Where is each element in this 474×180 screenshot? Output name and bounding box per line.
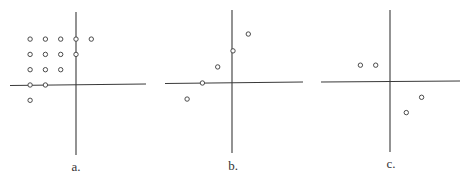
data-point — [28, 98, 32, 102]
data-point — [59, 37, 63, 41]
data-point — [59, 68, 63, 72]
x-axis — [165, 82, 303, 84]
data-point — [374, 63, 378, 67]
data-point — [216, 65, 220, 69]
data-point — [28, 83, 32, 87]
panel-a — [10, 12, 146, 155]
data-point — [89, 37, 93, 41]
data-point — [231, 49, 235, 53]
data-point — [419, 95, 423, 99]
data-point — [185, 97, 189, 101]
scatter-diagrams — [0, 0, 474, 180]
data-point — [43, 52, 47, 56]
data-point — [74, 37, 78, 41]
panel-c-caption: c. — [386, 156, 395, 172]
panel-b — [165, 10, 303, 153]
data-point — [200, 81, 204, 85]
panel-a-caption: a. — [71, 159, 80, 175]
data-point — [246, 32, 250, 36]
data-point — [74, 52, 78, 56]
data-point — [43, 68, 47, 72]
data-point — [59, 52, 63, 56]
data-point — [28, 68, 32, 72]
data-point — [404, 110, 408, 114]
data-point — [43, 83, 47, 87]
panel-c — [321, 10, 460, 152]
data-point — [358, 63, 362, 67]
data-point — [43, 37, 47, 41]
data-point — [28, 52, 32, 56]
data-point — [28, 37, 32, 41]
panel-b-caption: b. — [228, 158, 238, 174]
